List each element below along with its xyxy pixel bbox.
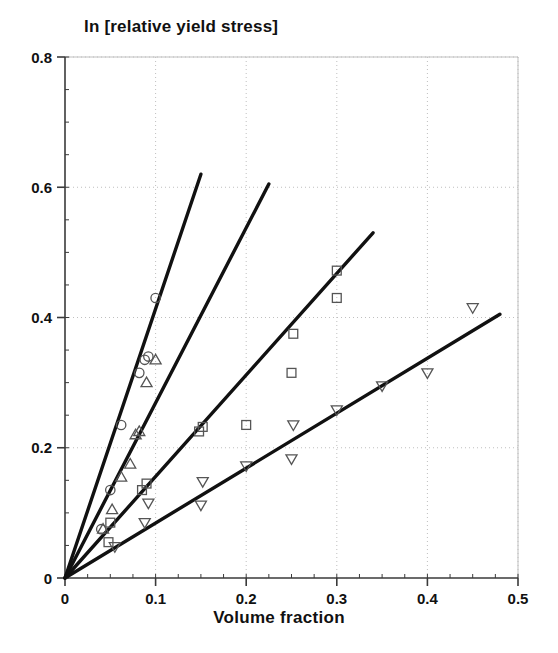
x-axis-tick-label: 0.4 [417, 590, 439, 607]
data-point-triangle-up [107, 504, 118, 514]
fit-line-circles [65, 174, 201, 578]
y-axis-tick-label: 0.4 [31, 309, 53, 326]
x-axis-label: Volume fraction [0, 608, 558, 628]
data-point-triangle-down [197, 478, 208, 488]
data-point-triangle-down [195, 501, 206, 511]
x-axis-tick-label: 0.3 [326, 590, 347, 607]
data-point-triangle-down [143, 499, 154, 509]
scatter-plot-canvas: 00.20.40.60.800.10.20.30.40.5 [0, 0, 558, 653]
fit-line-triangles-up [65, 184, 269, 578]
chart-figure: ln [relative yield stress] 00.20.40.60.8… [0, 0, 558, 653]
fit-line-squares [65, 233, 373, 578]
x-axis-tick-label: 0.1 [145, 590, 166, 607]
x-axis-tick-label: 0.2 [236, 590, 257, 607]
data-point-square [287, 368, 296, 377]
data-point-triangle-down [467, 304, 478, 314]
y-axis-tick-label: 0.8 [31, 49, 52, 66]
data-point-triangle-down [286, 455, 297, 465]
fit-line-triangles-down [65, 314, 500, 578]
y-axis-tick-label: 0.6 [31, 179, 52, 196]
data-point-square [289, 329, 298, 338]
data-point-triangle-up [141, 377, 152, 387]
page-title: ln [relative yield stress] [84, 17, 278, 37]
x-axis-tick-label: 0.5 [508, 590, 529, 607]
y-axis-tick-label: 0 [44, 570, 52, 587]
data-point-triangle-down [288, 421, 299, 431]
x-axis-tick-label: 0 [61, 590, 69, 607]
data-point-circle [135, 368, 144, 377]
y-axis-tick-label: 0.2 [31, 439, 52, 456]
